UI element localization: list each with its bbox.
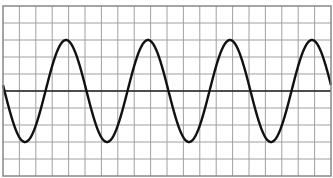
waveform-plot: [0, 0, 333, 178]
